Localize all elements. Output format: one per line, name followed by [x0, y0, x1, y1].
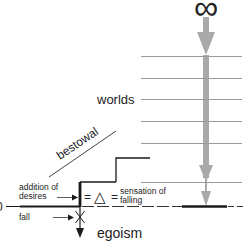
world-lines: [141, 57, 242, 183]
fall-pointer-arrow: [53, 215, 74, 221]
equals-2: =: [111, 190, 118, 204]
delta-symbol: △: [94, 188, 106, 205]
egoism-arrow: [76, 207, 85, 238]
sensation-label-2: falling: [120, 195, 142, 205]
zero-label: 0: [0, 200, 3, 214]
addition-pointer-arrow: [57, 195, 78, 201]
diagram-canvas: ∞ worlds bestowal 0 addition of: [0, 0, 245, 246]
descent-arrow: [197, 17, 215, 206]
worlds-label: worlds: [96, 92, 135, 107]
equals-1: =: [84, 190, 91, 204]
fall-label: fall: [19, 212, 30, 222]
addition-label-2: desires: [19, 191, 46, 201]
egoism-label: egoism: [97, 225, 142, 241]
bestowal-label: bestowal: [54, 124, 101, 162]
